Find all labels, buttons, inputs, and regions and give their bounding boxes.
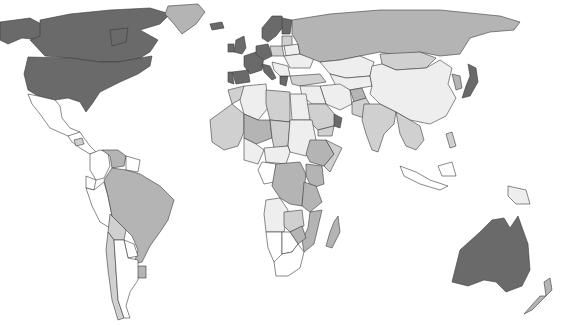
region-chad[interactable] [270,120,290,148]
region-baltic-states[interactable] [282,36,292,46]
region-central-africa[interactable] [264,146,290,164]
world-choropleth-map [0,0,563,325]
region-ireland[interactable] [228,44,234,52]
region-finland[interactable] [282,18,292,34]
region-poland[interactable] [270,46,284,56]
region-libya[interactable] [266,90,290,122]
